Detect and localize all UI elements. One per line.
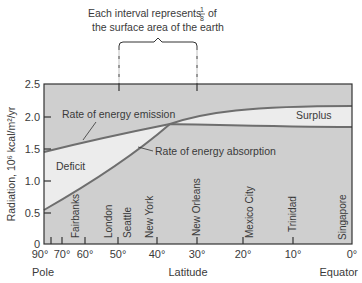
pole-label: Pole <box>32 266 54 278</box>
y-tick-1.5: 1.5 <box>25 143 40 155</box>
annotation-of: of <box>208 7 217 19</box>
y-tick-0.5: 0.5 <box>25 207 40 219</box>
x-tick-70: 70° <box>54 248 71 260</box>
city-mexico-city: Mexico City <box>244 186 255 238</box>
equator-label: Equator <box>319 266 358 278</box>
city-seattle: Seattle <box>122 206 133 238</box>
interval-bracket <box>119 38 197 84</box>
y-tick-2.5: 2.5 <box>25 78 40 90</box>
city-trinidad: Trinidad <box>287 196 298 232</box>
x-tick-10: 10° <box>285 248 302 260</box>
city-singapore: Singapore <box>337 194 348 240</box>
y-axis-label: Radiation, 10⁶ kcal/m²/yr <box>5 106 17 221</box>
deficit-label: Deficit <box>56 160 85 172</box>
annotation-line1: Each interval represents <box>88 7 201 19</box>
chart: 2.5 2.0 1.5 1.0 0.5 0 Radiation, 10⁶ kca… <box>0 0 362 283</box>
city-london: London <box>103 205 114 238</box>
surplus-label: Surplus <box>296 109 332 121</box>
y-tick-1.0: 1.0 <box>25 175 40 187</box>
x-tick-90: 90° <box>32 248 49 260</box>
annotation-frac-num: 1 <box>200 6 204 13</box>
absorption-label: Rate of energy absorption <box>155 145 276 157</box>
x-axis-label: Latitude <box>168 266 207 278</box>
x-tick-0: 0° <box>347 248 358 260</box>
y-tick-2.0: 2.0 <box>25 111 40 123</box>
city-fairbanks: Fairbanks <box>70 194 81 238</box>
emission-label: Rate of energy emission <box>62 108 175 120</box>
x-tick-40: 40° <box>149 248 166 260</box>
city-new-orleans: New Orleans <box>191 178 202 236</box>
annotation-line2: the surface area of the earth <box>92 21 224 33</box>
city-new-york: New York <box>144 195 155 238</box>
x-tick-30: 30° <box>189 248 206 260</box>
x-tick-50: 50° <box>110 248 127 260</box>
x-tick-60: 60° <box>77 248 94 260</box>
x-tick-20: 20° <box>235 248 252 260</box>
